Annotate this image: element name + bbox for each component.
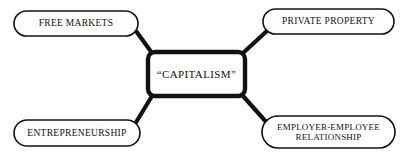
node-shape-private-property[interactable] — [263, 9, 394, 34]
connector-free-markets — [136, 31, 152, 53]
node-shape-free-markets[interactable] — [14, 11, 138, 36]
diagram-svg — [0, 0, 406, 156]
node-shape-employer-employee-relationship[interactable] — [262, 116, 395, 148]
center-node-shape-group — [148, 52, 245, 96]
node-shape-center[interactable] — [148, 52, 245, 96]
connector-employer-employee — [243, 96, 268, 124]
connector-entrepreneurship — [135, 96, 152, 124]
node-shape-entrepreneurship[interactable] — [14, 120, 140, 146]
connector-private-property — [243, 30, 268, 53]
diagram-canvas: FREE MARKETS PRIVATE PROPERTY ENTREPRENE… — [0, 0, 406, 156]
